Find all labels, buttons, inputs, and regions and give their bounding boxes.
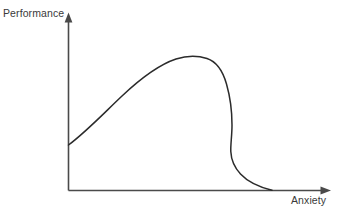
chart-canvas [0,0,342,212]
chart-figure: Performance Anxiety [0,0,342,212]
plot-background [0,0,342,212]
x-axis-label: Anxiety [291,194,326,206]
y-axis-label: Performance [3,7,64,19]
